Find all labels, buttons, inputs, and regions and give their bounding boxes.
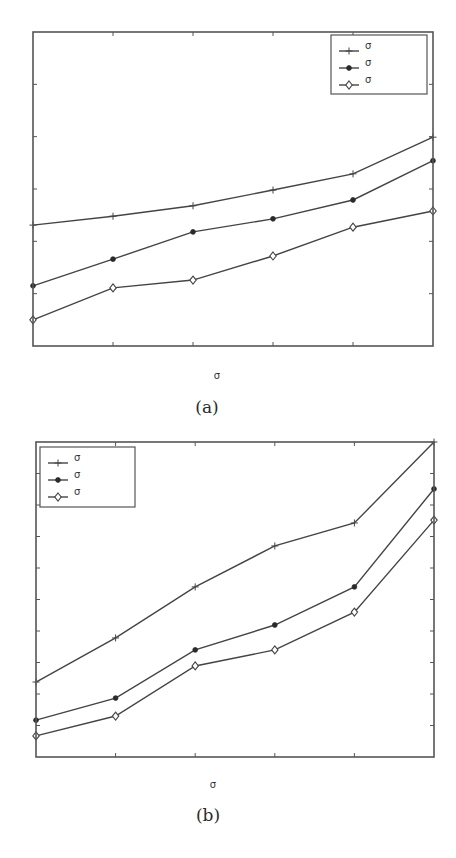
data-point-plus-marker (271, 542, 278, 549)
data-point-diamond-marker (272, 646, 278, 654)
data-point-dot-marker (113, 696, 118, 701)
series-3-diamond (33, 516, 437, 740)
figure-caption-b: (b) (196, 805, 220, 825)
x-axis-label-b: σ (210, 779, 216, 790)
figure-panel-b: σσσ σ (b) (0, 0, 456, 858)
series-2-dot (34, 487, 437, 723)
data-point-diamond-marker (192, 662, 198, 670)
data-point-diamond-marker (112, 712, 118, 720)
data-point-plus-marker (192, 583, 199, 590)
data-point-dot-marker (272, 623, 277, 628)
legend-b: σσσ (40, 447, 135, 507)
data-point-plus-marker (112, 634, 119, 641)
data-point-dot-marker (352, 585, 357, 590)
legend-label: σ (74, 469, 81, 480)
legend-label: σ (74, 486, 81, 497)
legend-dot-marker (56, 478, 61, 483)
data-point-dot-marker (193, 648, 198, 653)
line-chart-b: σσσ (0, 0, 456, 858)
legend-label: σ (74, 452, 81, 463)
